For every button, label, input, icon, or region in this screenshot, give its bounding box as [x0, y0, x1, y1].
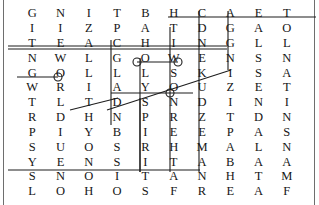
letter-cell: O — [46, 184, 74, 199]
letter-cell: A — [131, 21, 159, 36]
letter-cell: L — [46, 95, 74, 110]
letter-cell: I — [75, 6, 103, 21]
letter-cell: T — [244, 169, 272, 184]
letter-cell: C — [188, 6, 216, 21]
letter-cell: L — [18, 184, 46, 199]
letter-cell: S — [131, 184, 159, 199]
letter-cell: I — [75, 80, 103, 95]
letter-cell: N — [46, 6, 74, 21]
letter-cell: G — [18, 6, 46, 21]
letter-cell: B — [103, 125, 131, 140]
letter-cell: T — [273, 6, 301, 21]
letter-cell: A — [244, 125, 272, 140]
letter-cell: E — [188, 51, 216, 66]
letter-cell: Y — [75, 125, 103, 140]
letter-cell: T — [216, 110, 244, 125]
letter-cell: G — [216, 36, 244, 51]
letter-cell: T — [273, 80, 301, 95]
letter-cell: I — [103, 169, 131, 184]
letter-cell: S — [103, 154, 131, 169]
letter-cell: M — [273, 169, 301, 184]
letter-cell: Z — [216, 80, 244, 95]
letter-cell: I — [216, 65, 244, 80]
letter-grid: GNITBHCAETIIZPATDGAOTEACHINGLLNWLGOWENSN… — [0, 0, 319, 205]
letter-cell: G — [216, 21, 244, 36]
letter-cell: E — [46, 36, 74, 51]
letter-cell: T — [18, 95, 46, 110]
letter-cell: C — [103, 36, 131, 51]
letter-cell: N — [273, 140, 301, 155]
letter-cell: L — [103, 65, 131, 80]
letter-cell: T — [131, 169, 159, 184]
letter-cell: A — [103, 80, 131, 95]
letter-cell: H — [75, 110, 103, 125]
letter-cell: T — [159, 154, 187, 169]
letter-cell: N — [18, 51, 46, 66]
letter-cell: S — [244, 65, 272, 80]
letter-cell: A — [216, 6, 244, 21]
letter-cell: D — [46, 110, 74, 125]
letter-cell: N — [244, 95, 272, 110]
letter-cell: D — [244, 110, 272, 125]
letter-cell: R — [159, 110, 187, 125]
letter-cell: N — [103, 110, 131, 125]
letter-cell: S — [131, 95, 159, 110]
letter-cell: D — [103, 95, 131, 110]
letter-cell: A — [216, 140, 244, 155]
letter-cell: A — [244, 184, 272, 199]
letter-cell: A — [188, 154, 216, 169]
letter-cell: O — [131, 51, 159, 66]
letter-cell: L — [75, 65, 103, 80]
letter-cell: R — [188, 184, 216, 199]
letter-cell: T — [103, 6, 131, 21]
letter-cell: R — [18, 110, 46, 125]
letter-cell: O — [103, 184, 131, 199]
letter-cell: D — [188, 95, 216, 110]
letter-cell: O — [75, 169, 103, 184]
letter-cell: L — [244, 36, 272, 51]
letter-cell: H — [131, 36, 159, 51]
letter-cell: Z — [188, 110, 216, 125]
letter-cell: N — [273, 110, 301, 125]
letter-cell: I — [46, 125, 74, 140]
letter-cell: I — [46, 21, 74, 36]
letter-cell: N — [75, 154, 103, 169]
letter-cell: E — [159, 125, 187, 140]
letter-cell: I — [131, 154, 159, 169]
letter-cell: B — [216, 154, 244, 169]
letter-cell: H — [75, 184, 103, 199]
letter-cell: A — [244, 21, 272, 36]
letter-cell: E — [244, 6, 272, 21]
letter-cell: P — [103, 21, 131, 36]
letter-cell: N — [188, 169, 216, 184]
letter-cell: W — [18, 80, 46, 95]
letter-cell: P — [131, 110, 159, 125]
letter-cell: P — [18, 125, 46, 140]
letter-cell: P — [216, 125, 244, 140]
letter-cell: H — [159, 140, 187, 155]
letter-cell: F — [273, 184, 301, 199]
letter-cell: A — [75, 36, 103, 51]
letter-cell: N — [273, 51, 301, 66]
letter-cell: Y — [18, 154, 46, 169]
letter-cell: O — [46, 65, 74, 80]
letter-cell: D — [188, 21, 216, 36]
letter-cell: N — [188, 36, 216, 51]
letter-cell: E — [216, 184, 244, 199]
letter-cell: R — [46, 80, 74, 95]
letter-cell: T — [75, 95, 103, 110]
letter-cell: N — [159, 95, 187, 110]
letter-cell: E — [188, 125, 216, 140]
letter-cell: N — [216, 51, 244, 66]
letter-cell: G — [18, 65, 46, 80]
letter-cell: N — [46, 169, 74, 184]
letter-cell: L — [273, 36, 301, 51]
letter-cell: B — [131, 6, 159, 21]
letter-cell: S — [273, 125, 301, 140]
letter-cell: K — [188, 65, 216, 80]
letter-cell: R — [131, 140, 159, 155]
letter-cell: A — [273, 154, 301, 169]
letter-cell: S — [18, 140, 46, 155]
letter-cell: I — [273, 95, 301, 110]
letter-cell: W — [159, 51, 187, 66]
